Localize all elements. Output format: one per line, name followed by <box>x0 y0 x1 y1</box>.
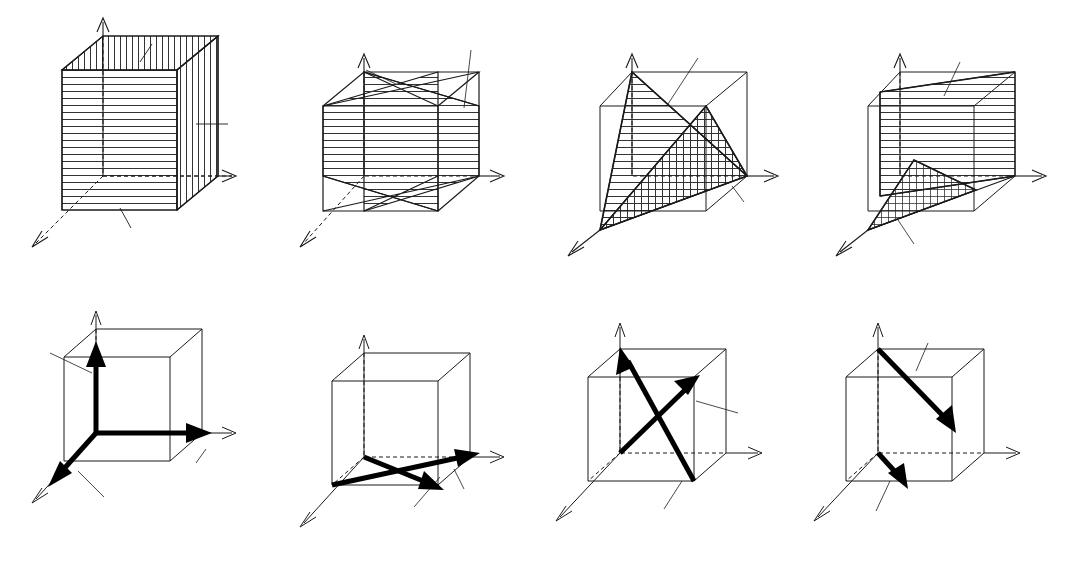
panel-directions-111-bar1bar11 <box>536 285 804 569</box>
face-100 <box>62 70 177 210</box>
vector-22bar1 <box>878 349 946 419</box>
panel-planes-110-bar110 <box>268 0 536 284</box>
panel-directions-110-bar110 <box>268 285 536 569</box>
arrowhead-111 <box>674 375 700 395</box>
arrowhead-010 <box>186 423 212 443</box>
miller-indices-figure <box>0 0 1073 569</box>
panel-planes-001-010-100 <box>0 0 268 284</box>
vector-111 <box>620 387 688 453</box>
panel-directions-001-010-100 <box>0 285 268 569</box>
panel-directions-22bar1-210 <box>804 285 1072 569</box>
vector-100 <box>62 433 96 471</box>
arrowhead-110 <box>418 471 444 490</box>
arrowhead-001 <box>86 341 106 367</box>
panel-planes-210-123 <box>804 0 1072 284</box>
panel-planes-111-11bar1 <box>536 0 804 284</box>
arrowhead-bar110 <box>454 449 480 467</box>
